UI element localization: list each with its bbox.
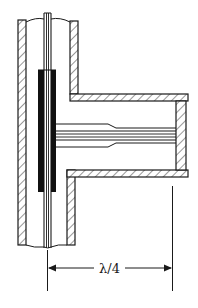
quarter-wave-dimension: λ/4 [48, 186, 173, 291]
arrowhead-left-icon [48, 265, 56, 272]
side-arm-top-wall [70, 94, 188, 101]
top-break-line-right [51, 18, 70, 22]
coax-tee-diagram: λ/4 [0, 0, 198, 308]
side-arm-bottom-wall [67, 170, 188, 177]
top-break-line [26, 18, 44, 22]
main-tube-right-wall-upper [70, 21, 78, 94]
main-tube-right-wall-lower [67, 170, 75, 245]
dimension-label: λ/4 [99, 261, 120, 276]
arrowhead-right-icon [164, 265, 172, 272]
inner-conductor-sleeve [38, 70, 56, 192]
main-inner-conductor [44, 13, 51, 248]
side-arm-inner-conductor [56, 124, 176, 147]
short-circuit-end-wall [176, 101, 186, 170]
main-tube-left-wall [18, 20, 26, 245]
